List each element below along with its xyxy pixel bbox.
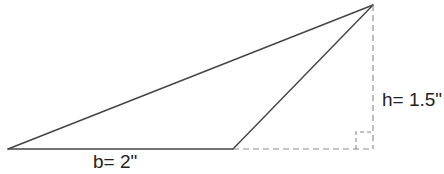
base-label: b= 2" xyxy=(93,151,137,172)
right-angle-marker xyxy=(356,132,373,149)
triangle-diagram: b= 2" h= 1.5" xyxy=(0,0,444,174)
height-label: h= 1.5" xyxy=(382,89,442,110)
triangle-long-side xyxy=(8,5,373,149)
triangle-short-side xyxy=(233,5,373,149)
